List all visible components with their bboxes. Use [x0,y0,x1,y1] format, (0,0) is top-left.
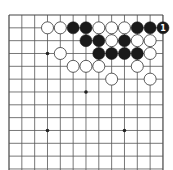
white-stone-body [93,60,105,72]
white-stone-body [54,22,66,34]
go-board-canvas[interactable]: 1 [0,0,173,170]
white-stone-body [80,60,92,72]
white-stone[interactable] [80,60,92,72]
star-point [84,90,88,94]
black-stone[interactable]: 1 [157,22,169,34]
black-stone-body [118,47,130,59]
black-stone-body [80,22,92,34]
white-stone-body [144,35,156,47]
white-stone-body [118,22,130,34]
black-stone[interactable] [80,22,92,34]
black-stone-body [118,35,130,47]
black-stone[interactable] [93,47,105,59]
white-stone[interactable] [131,35,143,47]
white-stone[interactable] [41,22,53,34]
black-stone-body [80,35,92,47]
white-stone-body [54,47,66,59]
white-stone[interactable] [144,47,156,59]
black-stone[interactable] [118,47,130,59]
black-stone-body [106,47,118,59]
white-stone[interactable] [93,60,105,72]
white-stone[interactable] [131,60,143,72]
white-stone-body [131,35,143,47]
white-stone[interactable] [144,35,156,47]
white-stone-body [106,22,118,34]
black-stone[interactable] [106,47,118,59]
white-stone[interactable] [144,73,156,85]
white-stone-body [106,73,118,85]
white-stone[interactable] [106,35,118,47]
white-stone[interactable] [106,73,118,85]
white-stone-body [93,22,105,34]
black-stone-body [131,47,143,59]
star-point [46,52,50,56]
star-point [123,129,127,133]
go-board[interactable]: 1 [0,0,173,170]
white-stone-body [144,73,156,85]
white-stone[interactable] [118,22,130,34]
white-stone-body [144,47,156,59]
black-stone-body [131,22,143,34]
white-stone[interactable] [67,60,79,72]
black-stone-body [144,22,156,34]
white-stone[interactable] [54,47,66,59]
black-stone[interactable] [93,35,105,47]
black-stone-body [93,35,105,47]
white-stone-body [131,60,143,72]
white-stone-body [106,35,118,47]
black-stone-body [93,47,105,59]
black-stone[interactable] [67,22,79,34]
black-stone[interactable] [80,35,92,47]
black-stone[interactable] [118,35,130,47]
black-stone[interactable] [131,22,143,34]
white-stone[interactable] [106,22,118,34]
white-stone[interactable] [93,22,105,34]
black-stone[interactable] [131,47,143,59]
white-stone-body [41,22,53,34]
black-stone-body [67,22,79,34]
black-stone[interactable] [144,22,156,34]
white-stone[interactable] [54,22,66,34]
move-number-label: 1 [160,24,166,33]
white-stone-body [67,60,79,72]
star-point [46,129,50,133]
